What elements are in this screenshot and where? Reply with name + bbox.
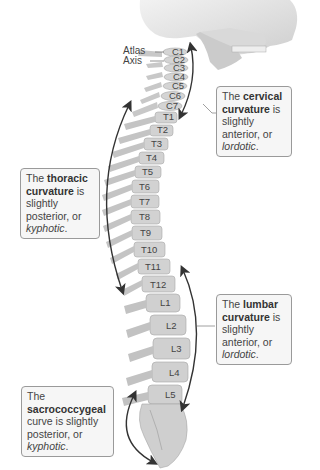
callout-term-italic: lordotic <box>222 348 256 360</box>
cervical-callout: The cervical curvature is slightly anter… <box>216 86 292 157</box>
callout-text: . <box>256 140 259 152</box>
callout-text: . <box>256 348 259 360</box>
lumbar-callout: The lumbar curvature is slightly anterio… <box>216 294 292 365</box>
callout-text: The <box>26 172 47 184</box>
label-t6: T6 <box>139 181 150 192</box>
label-l1: L1 <box>160 297 171 308</box>
axis-label: Axis <box>123 55 142 66</box>
callout-text: . <box>66 440 69 452</box>
label-l5: L5 <box>165 389 176 400</box>
callout-term: sacrococcygeal <box>27 403 106 415</box>
callout-text: curve is slightly posterior, or <box>27 415 98 440</box>
label-l2: L2 <box>166 320 177 331</box>
callout-term-italic: lordotic <box>222 140 256 152</box>
label-t12: T12 <box>150 279 166 290</box>
label-t4: T4 <box>146 152 157 163</box>
label-t10: T10 <box>141 244 157 255</box>
label-l3: L3 <box>171 343 182 354</box>
sacrococcygeal-callout: The sacrococcygeal curve is slightly pos… <box>21 386 114 457</box>
label-l4: L4 <box>169 367 180 378</box>
callout-term-italic: kyphotic <box>27 440 66 452</box>
callout-text: The <box>222 90 243 102</box>
label-c7: C7 <box>166 100 178 111</box>
label-t8: T8 <box>139 211 150 222</box>
label-t2: T2 <box>157 124 168 135</box>
thoracic-callout: The thoracic curvature is slightly poste… <box>20 168 100 239</box>
label-t9: T9 <box>140 227 151 238</box>
label-t3: T3 <box>151 138 162 149</box>
label-t11: T11 <box>145 261 161 272</box>
callout-text: . <box>65 222 68 234</box>
vertebral-column <box>102 48 190 468</box>
label-t7: T7 <box>139 196 150 207</box>
callout-term-italic: kyphotic <box>26 222 65 234</box>
label-t5: T5 <box>142 166 153 177</box>
label-t1: T1 <box>163 111 174 122</box>
skull-illustration <box>140 0 297 70</box>
callout-text: The <box>27 390 45 402</box>
callout-text: The <box>222 298 243 310</box>
